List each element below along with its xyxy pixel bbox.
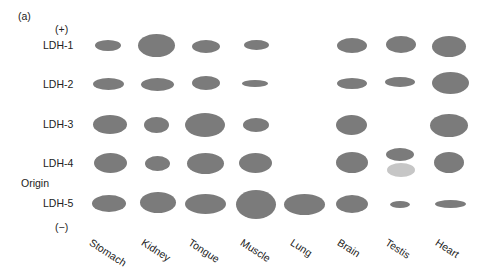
isozyme-band [385,77,415,87]
isozyme-band [93,78,124,90]
tissue-label-stomach: Stomach [87,236,128,269]
tissue-label-brain: Brain [335,236,362,259]
isozyme-band [94,153,127,173]
tissue-label-tongue: Tongue [186,236,221,265]
isozyme-band [435,200,466,208]
isozyme-band [95,40,121,51]
isozyme-band [187,153,224,174]
isozyme-band [430,114,468,137]
panel-label: (a) [18,11,31,22]
isozyme-band [386,36,416,53]
isozyme-band [336,195,368,213]
negative-pole-label: (−) [55,222,68,233]
isozyme-band [284,194,325,215]
tissue-label-testis: Testis [383,236,412,261]
isozyme-band [185,194,226,214]
isozyme-band [243,118,269,132]
isozyme-band [236,190,276,219]
isozyme-band [432,36,466,57]
isozyme-band [336,115,367,135]
isozyme-band [185,113,225,137]
tissue-label-muscle: Muscle [238,236,272,264]
isozyme-band [244,40,269,50]
isozyme-band [239,153,272,173]
isozyme-band [145,156,170,171]
row-label-ldh4: LDH-4 [43,158,73,169]
isozyme-band [192,40,220,53]
isozyme-band [138,34,175,57]
isozyme-band [141,78,174,91]
isozyme-band [336,152,368,173]
faint-isozyme-band [387,163,415,177]
row-label-ldh2: LDH-2 [43,79,73,90]
isozyme-band [386,148,414,161]
tissue-label-kidney: Kidney [139,236,172,264]
isozyme-band [242,80,268,87]
row-label-ldh5: LDH-5 [43,198,73,209]
isozyme-band [140,192,176,213]
positive-pole-label: (+) [55,24,68,35]
isozyme-band [337,78,367,89]
isozyme-band [92,195,126,212]
isozyme-band [192,76,220,90]
tissue-label-lung: Lung [288,236,314,259]
isozyme-band [144,117,169,133]
tissue-label-heart: Heart [433,236,461,260]
isozyme-band [337,38,367,53]
isozyme-band [390,201,410,208]
origin-label: Origin [21,178,49,189]
isozyme-band [432,72,469,94]
row-label-ldh3: LDH-3 [43,119,73,130]
isozyme-band [434,152,464,173]
row-label-ldh1: LDH-1 [43,40,73,51]
isozyme-band [93,115,127,134]
